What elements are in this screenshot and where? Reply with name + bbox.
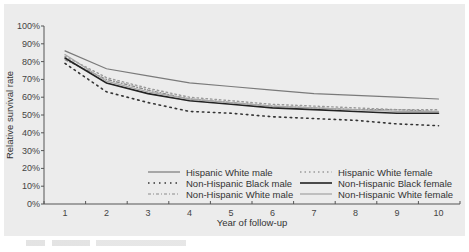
legend-label: Non-Hispanic White female (338, 189, 453, 200)
x-tick-label: 2 (104, 208, 109, 218)
series-lines (65, 51, 439, 126)
x-tick-label: 10 (433, 208, 443, 218)
legend-label: Non-Hispanic Black male (186, 178, 292, 189)
y-tick-label: 100% (17, 21, 40, 31)
x-tick-label: 8 (353, 208, 358, 218)
series-line-non-hispanic-black-male (65, 63, 439, 125)
legend-label: Non-Hispanic White male (186, 189, 293, 200)
legend: Hispanic White maleNon-Hispanic Black ma… (148, 167, 453, 200)
survival-line-chart: 0%10%20%30%40%50%60%70%80%90%100% 123456… (0, 0, 469, 252)
legend-label: Hispanic White male (186, 167, 273, 178)
y-tick-label: 40% (22, 128, 40, 138)
y-axis-title: Relative survival rate (4, 71, 15, 159)
x-tick-label: 4 (187, 208, 192, 218)
x-tick-label: 9 (394, 208, 399, 218)
y-tick-label: 70% (22, 74, 40, 84)
legend-label: Hispanic White female (338, 167, 433, 178)
y-tick-label: 10% (22, 181, 40, 191)
x-tick-label: 1 (62, 208, 67, 218)
legend-label: Non-Hispanic Black female (338, 178, 452, 189)
y-tick-label: 80% (22, 57, 40, 67)
x-axis-title: Year of follow-up (217, 217, 287, 228)
y-tick-label: 30% (22, 146, 40, 156)
y-tick-label: 50% (22, 110, 40, 120)
series-line-hispanic-white-male (65, 51, 439, 99)
figure-caption-cropped (26, 240, 186, 246)
y-tick-label: 60% (22, 92, 40, 102)
y-tick-label: 20% (22, 163, 40, 173)
x-tick-label: 3 (145, 208, 150, 218)
y-axis: 0%10%20%30%40%50%60%70%80%90%100% (17, 21, 44, 209)
y-tick-label: 0% (27, 199, 40, 209)
x-axis: 12345678910 (44, 201, 460, 218)
x-tick-label: 7 (311, 208, 316, 218)
y-tick-label: 90% (22, 39, 40, 49)
